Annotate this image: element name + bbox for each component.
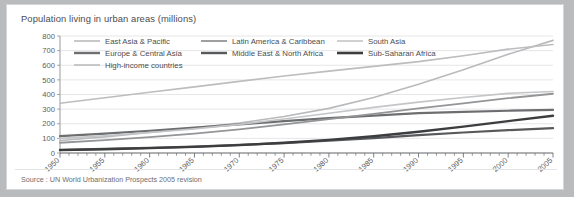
y-tick-label: 300 [42, 105, 55, 114]
y-tick-label: 400 [42, 90, 55, 99]
legend-label: Latin America & Caribbean [232, 37, 325, 46]
x-tick-label-group: 2000 [491, 156, 510, 174]
x-tick-label-group: 1960 [132, 156, 151, 174]
x-tick-label-group: 1950 [43, 156, 62, 174]
x-tick-label-group: 1955 [88, 156, 107, 174]
x-tick-label: 1995 [446, 156, 465, 174]
x-tick-label-group: 1995 [446, 156, 465, 174]
y-tick-label: 700 [42, 46, 55, 55]
y-tick-label: 200 [42, 119, 55, 128]
x-tick-label-group: 2005 [536, 156, 555, 174]
legend-label: East Asia & Pacific [105, 37, 170, 46]
x-tick-label: 1965 [177, 156, 196, 174]
x-tick-label: 2000 [491, 156, 510, 174]
footer-divider [15, 169, 557, 170]
x-tick-label-group: 1975 [267, 156, 286, 174]
x-tick-label: 1990 [401, 156, 420, 174]
legend-label: South Asia [368, 37, 406, 46]
x-tick-label: 1975 [267, 156, 286, 174]
legend-label: High-income countries [105, 61, 183, 70]
y-tick-label: 500 [42, 76, 55, 85]
legend-label: Sub-Saharan Africa [368, 49, 436, 58]
x-tick-label-group: 1990 [401, 156, 420, 174]
x-tick-label: 2005 [536, 156, 555, 174]
x-tick-label-group: 1970 [222, 156, 241, 174]
x-tick-label-group: 1985 [356, 156, 375, 174]
series-line-latin-america-caribbean [60, 94, 553, 143]
x-tick-label: 1950 [43, 156, 62, 174]
legend-label: Europe & Central Asia [105, 49, 182, 58]
chart-figure: Population living in urban areas (millio… [6, 4, 564, 190]
x-tick-label-group: 1965 [177, 156, 196, 174]
x-tick-label: 1970 [222, 156, 241, 174]
x-tick-label: 1955 [88, 156, 107, 174]
legend-label: Middle East & North Africa [232, 49, 324, 58]
source-note: Source : UN World Urbanization Prospects… [21, 175, 202, 184]
y-tick-label: 600 [42, 61, 55, 70]
x-tick-label: 1985 [356, 156, 375, 174]
x-tick-label: 1980 [312, 156, 331, 174]
x-tick-label-group: 1980 [312, 156, 331, 174]
line-chart: 0100200300400500600700800195019551960196… [7, 5, 565, 191]
x-tick-label: 1960 [132, 156, 151, 174]
y-tick-label: 100 [42, 134, 55, 143]
plot-area: 0100200300400500600700800195019551960196… [7, 5, 565, 191]
y-tick-label: 800 [42, 32, 55, 41]
